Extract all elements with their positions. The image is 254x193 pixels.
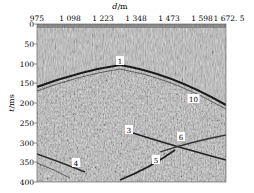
svg-text:6: 6	[179, 134, 184, 142]
y-tick: 100	[20, 60, 35, 69]
x-axis-title: d/m	[112, 2, 128, 11]
event-label-6: 6	[177, 132, 185, 142]
x-tick: 1 098	[59, 14, 81, 23]
event-label-4: 4	[72, 158, 80, 168]
x-axis-ticks: 975 1 098 1 223 1 348 1 473 1 598 1 672.…	[30, 14, 245, 23]
seismic-figure: d/m 975 1 098 1 223 1 348 1 473 1 598 1 …	[0, 0, 254, 193]
y-tick: 350	[20, 158, 35, 167]
event-label-1: 1	[116, 56, 124, 66]
svg-text:5: 5	[154, 157, 158, 165]
y-tick: 200	[20, 99, 35, 108]
event-label-3: 3	[125, 125, 133, 135]
y-tick: 150	[20, 79, 35, 88]
y-tick-marks	[34, 24, 37, 182]
x-tick: 1 223	[92, 14, 114, 23]
y-tick: 400	[20, 178, 35, 187]
y-axis-title: t/ms	[7, 94, 16, 112]
x-tick: 1 672. 5	[213, 14, 244, 23]
x-tick: 1 598	[191, 14, 213, 23]
svg-text:10: 10	[189, 96, 198, 104]
x-tick: 1 473	[158, 14, 180, 23]
svg-text:4: 4	[74, 160, 79, 168]
y-tick: 250	[20, 119, 35, 128]
x-tick: 1 348	[125, 14, 147, 23]
event-label-5: 5	[152, 155, 160, 165]
y-tick: 300	[20, 139, 35, 148]
svg-text:1: 1	[118, 58, 122, 66]
event-label-10: 10	[188, 94, 200, 104]
svg-text:3: 3	[127, 127, 131, 135]
seismic-chart: d/m 975 1 098 1 223 1 348 1 473 1 598 1 …	[0, 0, 254, 193]
y-axis-ticks: 0 50 100 150 200 250 300 350 400	[20, 20, 35, 187]
y-tick: 0	[29, 20, 34, 29]
y-tick: 50	[24, 40, 34, 49]
